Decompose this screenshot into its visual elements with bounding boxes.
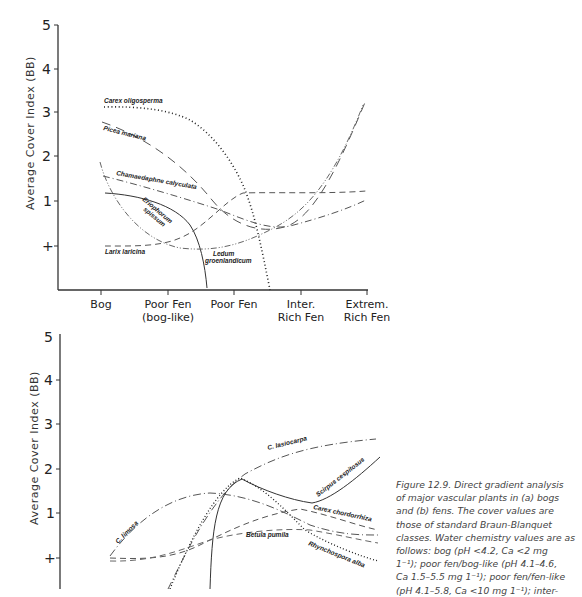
chart-a xyxy=(54,25,368,295)
caption-line: (pH 4.1–5.8, Ca <10 mg 1⁻¹); inter- xyxy=(396,584,582,597)
caption-line: 1⁻¹); poor fen/bog-like (pH 4.1–4.6, xyxy=(396,557,582,570)
figure-caption: Figure 12.9. Direct gradient analysis of… xyxy=(396,478,582,597)
series-scirpus-cespitosus xyxy=(210,457,380,589)
caption-line: those of standard Braun-Blanquet xyxy=(396,518,582,531)
chart-b-ytick-3: 3 xyxy=(44,416,53,432)
chart-a-xcat-bog: Bog xyxy=(90,298,111,311)
label-chamaedaphne-calyculata: Chamaedaphne calyculata xyxy=(116,169,198,191)
label-scirpus-cespitosus: Scirpus cespitosus xyxy=(314,455,366,498)
chart-a-ytick-2: 2 xyxy=(42,148,51,164)
chart-b-labels: 5 4 3 2 1 + Average Cover Index (BB) C. … xyxy=(28,329,373,570)
caption-line: classes. Water chemistry values are as xyxy=(396,531,582,544)
label-c-limosa: C. limosa xyxy=(114,519,140,545)
label-betula-pumila: Betula pumila xyxy=(246,531,289,539)
chart-b-ytick-plus: + xyxy=(44,550,56,566)
chart-b-ytick-4: 4 xyxy=(44,372,53,388)
chart-a-xcat-extrem-2: Rich Fen xyxy=(344,311,391,324)
chart-a-xcat-inter-1: Inter. xyxy=(287,298,315,311)
chart-a-ytick-5: 5 xyxy=(42,17,51,33)
chart-b-ylabel: Average Cover Index (BB) xyxy=(28,371,41,525)
caption-line: Figure 12.9. Direct gradient analysis xyxy=(396,478,582,491)
caption-line: Ca 1.5–5.5 mg 1⁻¹); poor fen/fen-like xyxy=(396,570,582,583)
label-groenlandicum: groenlandicum xyxy=(204,257,252,265)
chart-a-ylabel: Average Cover Index (BB) xyxy=(24,56,37,210)
chart-a-xcat-inter-2: Rich Fen xyxy=(278,311,325,324)
chart-a-xcat-poor-fen-bog-like-2: (bog-like) xyxy=(142,311,194,324)
chart-b-ytick-5: 5 xyxy=(44,329,53,345)
chart-a-labels: 5 4 3 2 1 + Average Cover Index (BB) Bog… xyxy=(24,17,390,324)
label-carex-oligosperma: Carex oligosperma xyxy=(104,97,163,105)
chart-a-ytick-4: 4 xyxy=(42,61,51,77)
caption-line: and (b) fens. The cover values are xyxy=(396,504,582,517)
label-ledum: Ledum xyxy=(213,250,235,257)
label-c-lasiocarpa: C. lasiocarpa xyxy=(267,434,309,452)
chart-a-xcat-poor-fen-bog-like-1: Poor Fen xyxy=(144,298,191,311)
chart-b-ytick-1: 1 xyxy=(46,505,55,521)
chart-a-xcat-extrem-1: Extrem. xyxy=(345,298,388,311)
label-rhynchospora-alba: Rhynchospora alba xyxy=(307,539,366,569)
chart-a-ytick-3: 3 xyxy=(42,104,51,120)
chart-b-ytick-2: 2 xyxy=(44,461,53,477)
caption-line: of major vascular plants in (a) bogs xyxy=(396,491,582,504)
chart-a-ytick-1: 1 xyxy=(43,193,52,209)
chart-a-ytick-plus: + xyxy=(42,238,54,254)
label-carex-chordorrhiza: Carex chordorrhiza xyxy=(313,503,373,522)
label-larix-laricina: Larix laricina xyxy=(105,248,145,255)
series-picea-mariana xyxy=(102,100,366,229)
caption-line: follows: bog (pH <4.2, Ca <2 mg xyxy=(396,544,582,557)
label-picea-mariana: Picea mariana xyxy=(103,124,147,141)
chart-a-xcat-poor-fen: Poor Fen xyxy=(210,298,257,311)
